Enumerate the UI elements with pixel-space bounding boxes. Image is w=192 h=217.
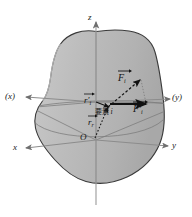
vector-label-r-primed-subscript: i bbox=[89, 100, 91, 106]
axis-label-y-primed: (y) bbox=[172, 93, 182, 102]
axis-label-x-primed: (x) bbox=[5, 92, 15, 101]
axis-label-x: x bbox=[13, 143, 17, 152]
vector-label-F-i: Fi bbox=[118, 72, 126, 83]
axis-label-y: y bbox=[172, 141, 176, 150]
axis-label-z: z bbox=[88, 13, 92, 22]
origin-label-O: O bbox=[80, 133, 87, 142]
vector-label-r-i-base: r bbox=[88, 117, 92, 127]
rigid-body-shape bbox=[35, 30, 165, 183]
element-label-index: i bbox=[108, 107, 112, 116]
vector-label-r-i-subscript: r bbox=[92, 122, 94, 128]
vector-arrow-overbar-icon bbox=[84, 92, 95, 96]
vector-label-r-primed: r'i bbox=[84, 95, 91, 105]
vector-label-F-i-primed: F'i bbox=[133, 103, 143, 114]
vector-label-r-i: rr bbox=[88, 117, 94, 127]
vector-label-F-i-subscript: i bbox=[124, 78, 126, 84]
physics-diagram-figure: z (x) (y) x y O Fi F'i r'i bbox=[0, 0, 192, 217]
element-label: 要素i bbox=[95, 108, 112, 116]
vector-label-F-i-primed-subscript: i bbox=[141, 109, 143, 115]
element-label-text: 要素 bbox=[95, 108, 108, 116]
vector-arrow-overbar-icon bbox=[133, 100, 148, 104]
vector-arrow-overbar-icon bbox=[118, 69, 132, 73]
